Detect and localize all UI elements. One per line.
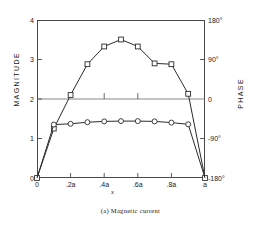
phase-axis-tick-neg90: -90° <box>208 135 234 142</box>
left-axis-ticks <box>37 60 42 139</box>
y-axis-tick-1: 1 <box>22 135 34 142</box>
interior-zero-line-ticks <box>104 93 138 99</box>
phase-axis-title: PHASE <box>237 78 244 109</box>
phase-axis-tick-0: 0 <box>208 96 234 103</box>
series-magnitude-markers <box>35 37 208 180</box>
x-axis-tick-06a: .6a <box>127 181 149 188</box>
x-axis-tick-08a: .8a <box>160 181 182 188</box>
plot-canvas <box>0 0 261 226</box>
series-phase-markers <box>51 119 190 128</box>
x-axis-tick-0: 0 <box>26 181 48 188</box>
y-axis-title: MAGNITUDE <box>13 52 20 107</box>
y-axis-tick-3: 3 <box>22 56 34 63</box>
x-axis-title: x <box>111 189 114 195</box>
x-axis-tick-02a: .2a <box>60 181 82 188</box>
figure-magnetic-current: 4 3 2 1 0 180° 90° 0 -90° -180° 0 .2a .4… <box>0 0 261 226</box>
series-magnitude-line <box>37 40 205 179</box>
x-axis-ticks <box>71 173 172 178</box>
y-axis-tick-4: 4 <box>22 17 34 24</box>
figure-caption: (a) Magnetic current <box>0 207 261 214</box>
y-axis-tick-2: 2 <box>22 96 34 103</box>
phase-axis-tick-180: 180° <box>208 17 234 24</box>
series-phase-line <box>37 121 205 178</box>
phase-axis-tick-90: 90° <box>208 56 234 63</box>
x-axis-tick-a: a <box>194 181 216 188</box>
x-axis-tick-04a: .4a <box>93 181 115 188</box>
